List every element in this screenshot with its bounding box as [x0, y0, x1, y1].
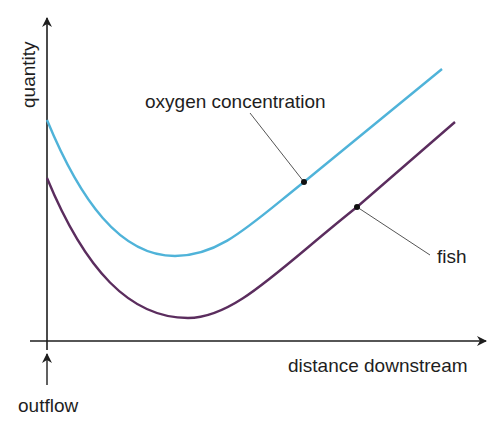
oxygen-label: oxygen concentration — [145, 91, 326, 112]
fish-curve — [47, 122, 455, 318]
fish-leader-line — [357, 207, 430, 255]
river-pollution-diagram: quantity oxygen concentration fish dista… — [0, 0, 501, 428]
outflow-label: outflow — [18, 395, 78, 416]
x-axis-label: distance downstream — [288, 355, 468, 376]
y-axis-label: quantity — [18, 41, 39, 108]
fish-label: fish — [437, 246, 467, 267]
oxygen-marker-dot — [301, 179, 307, 185]
oxygen-leader-line — [250, 113, 304, 182]
fish-marker-dot — [354, 204, 360, 210]
